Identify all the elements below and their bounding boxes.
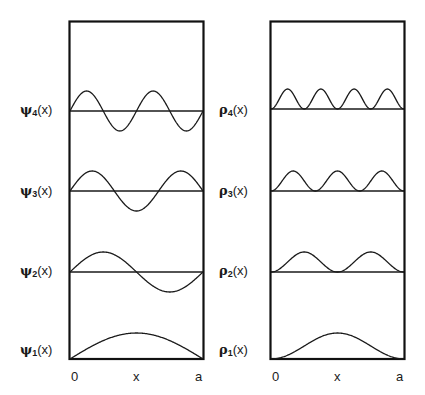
rho2-label: ρ2(x) — [219, 264, 248, 281]
figure-canvas — [0, 0, 425, 395]
rho1-curve — [271, 333, 404, 359]
rho3-curve — [271, 171, 404, 191]
left-axis-start: 0 — [71, 370, 78, 384]
rho2-curve — [271, 252, 404, 272]
psi1-curve — [70, 333, 203, 359]
psi3-label: ψ3(x) — [20, 184, 52, 201]
right-box — [271, 22, 405, 360]
rho4-curve — [271, 89, 404, 109]
right-axis-end: a — [396, 370, 403, 384]
psi4-label: ψ4(x) — [20, 103, 52, 120]
rho4-label: ρ4(x) — [219, 103, 248, 120]
left-axis-end: a — [195, 370, 202, 384]
rho3-label: ρ3(x) — [219, 184, 248, 201]
right-axis-mid: x — [334, 370, 341, 384]
left-axis-mid: x — [133, 370, 140, 384]
right-axis-start: 0 — [272, 370, 279, 384]
psi2-label: ψ2(x) — [20, 264, 52, 281]
psi1-label: ψ1(x) — [20, 343, 52, 360]
density-panel — [271, 22, 405, 360]
wavefunction-panel — [70, 22, 204, 360]
left-box — [70, 22, 204, 360]
rho1-label: ρ1(x) — [219, 343, 248, 360]
